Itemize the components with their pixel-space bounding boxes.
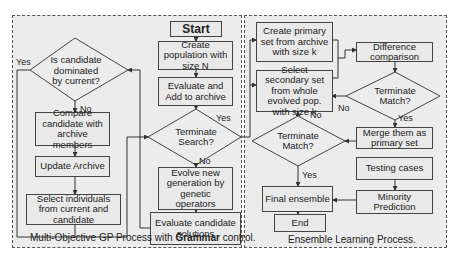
match1-yes-label: Yes bbox=[398, 113, 413, 123]
create-primary-node: Create primary set from archive with siz… bbox=[256, 22, 333, 62]
update-archive-node: Update Archive bbox=[35, 156, 110, 177]
testing-cases-node: Testing cases bbox=[356, 157, 433, 180]
start-node: Start bbox=[170, 21, 222, 37]
evaluate-add-node: Evaluate and Add to archive bbox=[158, 77, 233, 106]
terminate-match-1-decision: Terminate Match? bbox=[368, 85, 422, 107]
compare-node: Compare candidate with archive members bbox=[35, 112, 110, 146]
difference-node: Difference comparison bbox=[356, 42, 433, 62]
final-ensemble-node: Final ensemble bbox=[262, 186, 333, 212]
dominated-no-label: No bbox=[80, 104, 92, 114]
search-yes-label: Yes bbox=[216, 113, 231, 123]
terminate-match-2-decision: Terminate Match? bbox=[271, 130, 325, 152]
create-population-node: Create population with size N bbox=[158, 41, 233, 70]
terminate-search-decision: Terminate Search? bbox=[165, 126, 227, 148]
dominated-yes-label: Yes bbox=[16, 57, 31, 67]
caption-post: control. bbox=[220, 232, 256, 243]
match1-no-label: No bbox=[338, 103, 350, 113]
merge-node: Merge them as primary set bbox=[356, 127, 433, 149]
search-no-label: No bbox=[199, 156, 211, 166]
ensemble-process-caption: Ensemble Learning Process. bbox=[288, 234, 416, 245]
is-dominated-decision: Is candidate dominated by current? bbox=[48, 55, 104, 87]
minority-prediction-node: Minority Prediction bbox=[356, 190, 433, 214]
select-individuals-node: Select individuals from current and cand… bbox=[26, 194, 121, 225]
caption-bold: Grammar bbox=[175, 232, 219, 243]
select-secondary-node: Select secondary set from whole evolved … bbox=[256, 70, 333, 112]
evolve-node: Evolve new generation by genetic operato… bbox=[158, 167, 233, 210]
match2-no-label: No bbox=[310, 110, 322, 120]
caption-pre: Multi-Objective GP Process with bbox=[30, 232, 175, 243]
end-node: End bbox=[274, 214, 326, 232]
match2-yes-label: Yes bbox=[302, 170, 317, 180]
gp-process-caption: Multi-Objective GP Process with Grammar … bbox=[30, 232, 255, 243]
